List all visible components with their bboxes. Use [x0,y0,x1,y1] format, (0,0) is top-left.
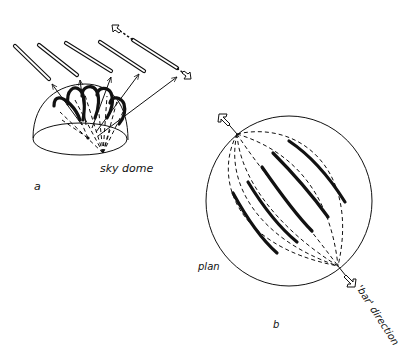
arrow-head-icon [182,71,191,79]
light-tube [133,40,177,68]
diagram-canvas: sky dome a plan [0,0,418,359]
daylight-bar [273,153,328,217]
daylight-bar [248,182,297,242]
arrow-down-right-icon [344,275,356,287]
panel-a: sky dome a [15,25,191,193]
arrow-up-left-icon [218,114,230,126]
panel-b: plan b 'bar' direction [197,114,401,347]
light-tube [39,45,77,75]
daylight-bars [233,141,345,253]
daylight-bar [289,141,345,202]
bar-direction-label: 'bar' direction [354,283,401,347]
arrow-head-icon [112,25,121,33]
sun-path-arcs [54,87,125,124]
panel-a-label: a [34,180,41,193]
sky-dome-caption: sky dome [100,162,154,175]
plan-label: plan [197,261,220,272]
daylight-bar [233,193,277,253]
panel-b-label: b [273,319,279,330]
light-tubes [15,40,177,79]
daylight-bar [262,167,312,231]
